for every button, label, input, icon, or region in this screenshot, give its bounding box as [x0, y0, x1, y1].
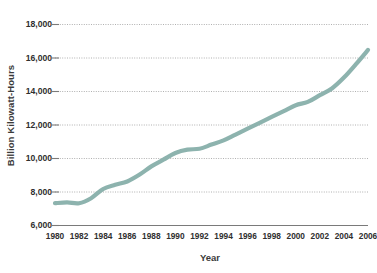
x-axis-tick-label: 2002 — [311, 231, 329, 241]
x-axis-tick-label: 1986 — [118, 231, 136, 241]
x-axis-tick-label: 1982 — [70, 231, 88, 241]
line-chart: Billion Kilowatt-Hours 6,0008,00010,0001… — [0, 0, 377, 273]
x-axis-tick-label: 1994 — [214, 231, 232, 241]
x-axis-tick-label: 1998 — [262, 231, 280, 241]
x-axis-tick-label: 2004 — [335, 231, 353, 241]
x-axis-tick-label: 1984 — [94, 231, 112, 241]
x-axis-tick-label: 1996 — [238, 231, 256, 241]
x-axis-title: Year — [55, 252, 365, 263]
x-axis-tick-labels: 1980198219841986198819901992199419961998… — [0, 0, 377, 273]
x-axis-tick-label: 1980 — [46, 231, 64, 241]
x-axis-tick-label: 1990 — [166, 231, 184, 241]
x-axis-tick-label: 1992 — [190, 231, 208, 241]
x-axis-tick-label: 2000 — [287, 231, 305, 241]
x-axis-tick-label: 2006 — [359, 231, 377, 241]
x-axis-tick-label: 1988 — [142, 231, 160, 241]
